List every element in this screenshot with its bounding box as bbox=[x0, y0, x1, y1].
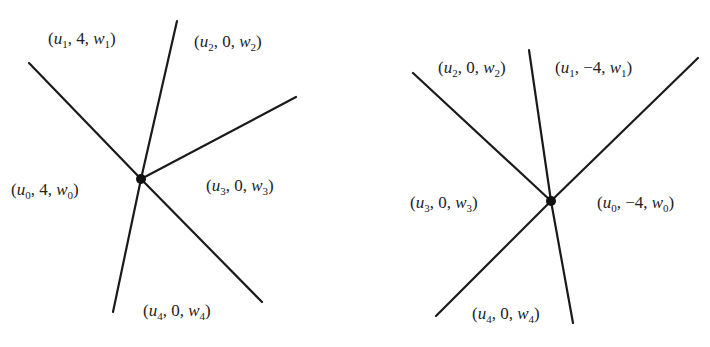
edge-right-4 bbox=[436, 201, 551, 316]
label-right-u2: (u2, 0, w2) bbox=[438, 59, 506, 76]
label-right-u1: (u1, −4, w1) bbox=[555, 59, 632, 76]
edge-right-1 bbox=[413, 73, 551, 201]
label-right-u3: (u3, 0, w3) bbox=[410, 194, 478, 211]
diagram-canvas bbox=[0, 0, 710, 347]
vertex-right bbox=[546, 196, 556, 206]
label-left-u1: (u1, 4, w1) bbox=[48, 30, 116, 47]
vertex-left bbox=[136, 174, 146, 184]
label-left-u0: (u0, 4, w0) bbox=[11, 181, 79, 198]
right-diagram bbox=[413, 50, 698, 323]
label-right-u4: (u4, 0, w4) bbox=[472, 305, 540, 322]
label-right-u0: (u0, −4, w0) bbox=[597, 194, 674, 211]
label-left-u3: (u3, 0, w3) bbox=[206, 177, 274, 194]
edge-left-5 bbox=[113, 179, 141, 312]
edge-left-1 bbox=[29, 63, 141, 179]
edge-right-3 bbox=[551, 58, 698, 201]
edge-left-3 bbox=[141, 97, 296, 179]
label-left-u4: (u4, 0, w4) bbox=[143, 302, 211, 319]
label-left-u2: (u2, 0, w2) bbox=[194, 33, 262, 50]
edge-left-4 bbox=[141, 179, 262, 302]
edge-right-5 bbox=[551, 201, 573, 323]
left-diagram bbox=[29, 21, 296, 312]
edge-left-2 bbox=[141, 21, 177, 179]
edge-right-2 bbox=[529, 50, 551, 201]
